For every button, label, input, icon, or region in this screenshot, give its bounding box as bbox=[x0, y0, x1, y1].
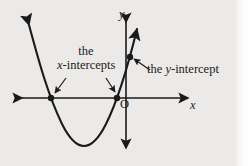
x-intercepts-annotation: the x-intercepts bbox=[57, 45, 115, 72]
parabola-intercepts-figure: the x-intercepts the y-intercept x y O bbox=[0, 0, 248, 166]
left-x-intercept-dot bbox=[48, 95, 54, 101]
y-intercept-annotation: the y-intercept bbox=[147, 63, 219, 76]
figure-canvas bbox=[0, 0, 248, 166]
x-intercepts-line2: x-intercepts bbox=[57, 59, 115, 73]
origin-label: O bbox=[120, 98, 129, 111]
y-intercept-dot bbox=[127, 54, 133, 60]
leader-arrow-left-x-intercept bbox=[55, 78, 66, 93]
leader-arrow-right-x-intercept bbox=[106, 78, 115, 92]
y-axis-label: y bbox=[119, 8, 125, 21]
y-intercept-prefix: the bbox=[147, 62, 165, 76]
y-intercept-suffix: -intercept bbox=[171, 62, 219, 76]
x-intercepts-line1: the bbox=[57, 45, 115, 59]
x-intercepts-suffix: -intercepts bbox=[63, 58, 116, 72]
x-axis-label: x bbox=[190, 99, 196, 112]
